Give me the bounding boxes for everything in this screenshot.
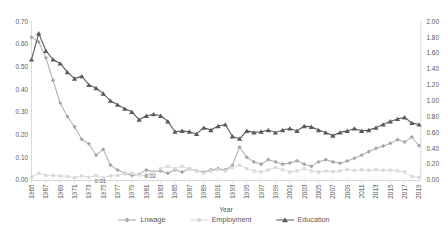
series-lnwage-marker [359,153,363,157]
series-lnwage-marker [144,168,148,172]
series-employment-marker [331,170,334,173]
series-education-marker [129,110,134,114]
series-lnwage-marker [345,159,349,163]
line-chart: Year 0.000.100.200.300.400.500.600.700.0… [0,0,448,232]
right-axis-tick-label: 1.20 [427,81,440,88]
series-employment-marker [238,164,241,167]
series-employment-marker [346,168,349,171]
left-axis-tick-label: 0.30 [16,108,29,115]
x-axis-tick-label: 1973 [85,184,92,199]
series-lnwage-marker [273,160,277,164]
right-axis-tick-label: 1.00 [427,97,440,104]
x-axis-tick-label: 2005 [315,184,322,199]
x-axis-tick-label: 2011 [358,184,365,198]
series-employment-marker [231,166,234,169]
x-axis-tick-label: 2003 [301,184,308,199]
x-axis-tick-label: 1965 [28,184,35,199]
x-axis-tick-label: 1993 [229,184,236,199]
legend-item-education: Education [276,215,330,224]
series-education-marker [373,125,378,129]
series-employment-marker [245,167,248,170]
series-education-marker [93,86,98,90]
series-employment-marker [209,169,212,172]
right-axis-tick-label: 0.00 [427,176,440,183]
series-lnwage-marker [374,146,378,150]
series-education-marker [352,126,357,130]
series-employment-marker [73,176,76,179]
x-axis-tick-label: 1985 [171,184,178,199]
series-employment-marker [195,169,198,172]
series-employment-marker [295,169,298,172]
legend-item-lnwage: Lnwage [118,215,165,224]
series-employment [30,164,421,180]
series-lnwage-marker [281,162,285,166]
series-employment-marker [159,167,162,170]
left-axis-tick-label: 0.40 [16,86,29,93]
series-lnwage-marker [58,101,62,105]
series-employment-marker [382,169,385,172]
data-label: 0.01 [95,178,106,184]
series-education-marker [316,128,321,132]
series-education-marker [330,133,335,137]
x-axis-tick-label: 2007 [329,184,336,199]
x-axis-tick-label: 2017 [401,184,408,199]
series-education-marker [115,102,120,106]
series-employment-marker [417,176,420,179]
series-employment-marker [181,165,184,168]
series-lnwage-marker [302,162,306,166]
series-employment-marker [37,172,40,175]
x-axis-tick-label: 1977 [114,184,121,199]
series-employment-marker [303,167,306,170]
right-axis-tick-label: 0.80 [427,113,440,120]
series-lnwage-marker [44,56,48,60]
diamond-legend-marker-icon [118,216,136,224]
chart-area: Year 0.000.100.200.300.400.500.600.700.0… [0,0,448,232]
series-employment-marker [66,175,69,178]
series-lnwage-marker [324,158,328,162]
series-lnwage-marker [288,161,292,165]
left-axis-tick-label: 0.10 [16,154,29,161]
right-axis-tick-label: 0.40 [427,145,440,152]
right-axis-tick-label: 2.00 [427,18,440,25]
left-axis-tick-label: 0.00 [16,176,29,183]
series-lnwage-marker [166,171,170,175]
x-axis-tick-label: 1989 [200,184,207,199]
series-lnwage-marker [367,150,371,154]
x-axis-tick-label: 1971 [71,184,78,199]
data-label: 0.02 [145,173,156,179]
series-education-marker [36,31,41,35]
series-employment-marker [374,168,377,171]
series-employment-marker [216,168,219,171]
series-lnwage-marker [331,160,335,164]
series-employment-marker [94,174,97,177]
series-employment-marker [116,174,119,177]
left-axis-tick-label: 0.70 [16,18,29,25]
series-employment-marker [59,174,62,177]
series-employment-marker [267,168,270,171]
series-employment-marker [166,165,169,168]
x-axis-tick-label: 1991 [214,184,221,199]
legend-label: Lnwage [140,215,165,224]
series-employment-marker [410,175,413,178]
series-employment-marker [44,174,47,177]
x-axis-tick-label: 1981 [143,184,150,199]
right-axis-tick-label: 1.40 [427,65,440,72]
square-legend-marker-icon [190,216,208,224]
series-employment-marker [324,169,327,172]
series-lnwage-marker [338,161,342,165]
series-employment-marker [87,176,90,179]
x-axis-tick-label: 1995 [243,184,250,199]
x-axis-tick-label: 1969 [57,184,64,199]
series-lnwage-marker [180,170,184,174]
triangle-legend-marker-icon [276,216,294,224]
left-axis-tick-label: 0.20 [16,131,29,138]
series-employment-marker [51,174,54,177]
series-employment-marker [288,170,291,173]
series-education-marker [230,134,235,138]
series-employment-marker [224,169,227,172]
x-axis-tick-label: 2013 [372,184,379,199]
x-axis-tick-label: 1999 [272,184,279,199]
series-lnwage-marker [381,144,385,148]
left-axis-tick-label: 0.50 [16,63,29,70]
right-axis-tick-label: 0.20 [427,160,440,167]
